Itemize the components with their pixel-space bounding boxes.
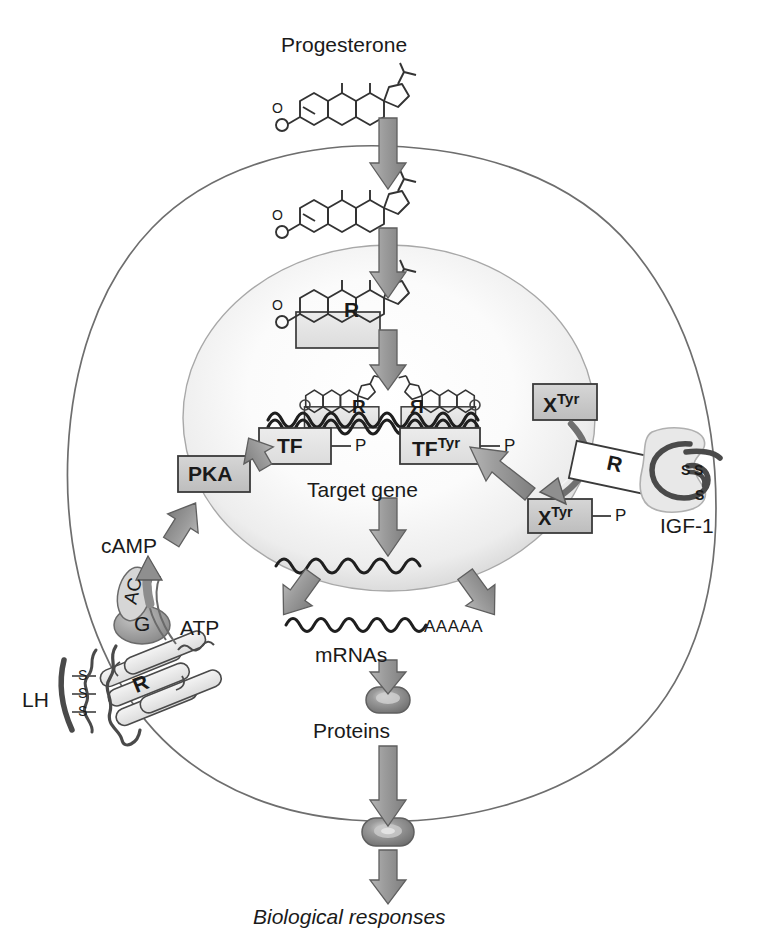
proteins-label: Proteins <box>313 719 390 743</box>
igf1-label: IGF-1 <box>660 514 714 538</box>
x-tyr-superscript: Tyr <box>557 390 579 407</box>
receptor-r-label: R <box>344 298 359 322</box>
x-tyr-label: XTyr <box>543 390 579 417</box>
x-tyr-base: X <box>543 393 557 416</box>
x-tyr-p-superscript: Tyr <box>551 504 572 520</box>
atp-label: ATP <box>180 616 219 640</box>
camp-label: cAMP <box>101 534 157 558</box>
tf-tyr-label: TFTyr <box>412 434 460 461</box>
receptor-r-box <box>296 312 380 348</box>
progesterone-label: Progesterone <box>281 33 407 57</box>
receptor-dimer-left-label: R <box>352 396 366 418</box>
tf-tyr-phospho-label: P <box>504 436 515 456</box>
target-gene-label: Target gene <box>307 478 418 502</box>
tf-phospho-label: P <box>355 436 366 456</box>
arrow-biological-responses <box>370 850 406 904</box>
tf-tyr-base: TF <box>412 437 438 460</box>
igf-disulfide-2-label: S <box>694 462 703 478</box>
x-tyr-p-base: X <box>538 507 551 529</box>
disulfide-2-label: S <box>78 685 87 701</box>
lh-label: LH <box>22 688 49 712</box>
polya-tail-label: AAAAA <box>424 617 483 637</box>
receptor-dimer-right-label: R <box>410 396 424 418</box>
x-tyr-phospho-label: XTyr <box>538 504 573 530</box>
disulfide-1-label: S <box>78 667 87 683</box>
steroid-oxygen-2-label: O <box>272 207 283 223</box>
disulfide-3-label: S <box>78 703 87 719</box>
pathway-diagram: Progesterone O O O R R R TF P TFTyr P Ta… <box>0 0 775 939</box>
igf-disulfide-3-label: S <box>695 487 704 503</box>
igf-disulfide-1-label: S <box>681 462 690 478</box>
tf-tyr-superscript: Tyr <box>438 434 460 451</box>
diagram-vector-layer <box>0 0 775 939</box>
x-tyr-phospho-p-label: P <box>615 506 626 526</box>
mrnas-label: mRNAs <box>315 643 387 667</box>
steroid-oxygen-3-label: O <box>272 297 283 313</box>
g-protein-label: G <box>134 612 150 636</box>
pka-label: PKA <box>188 462 232 486</box>
tf-label: TF <box>277 434 303 458</box>
steroid-oxygen-1-label: O <box>272 100 283 116</box>
biological-responses-label: Biological responses <box>253 905 446 929</box>
